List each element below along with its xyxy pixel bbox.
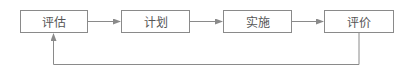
node-label: 评价	[347, 13, 371, 30]
node-label: 计划	[144, 13, 168, 30]
node-assess: 评估	[20, 10, 88, 33]
arrow-feedback	[54, 33, 360, 65]
node-label: 评估	[42, 13, 66, 30]
node-plan: 计划	[121, 10, 190, 33]
node-implement: 实施	[223, 10, 292, 33]
node-evaluate: 评价	[324, 10, 394, 33]
node-label: 实施	[246, 13, 270, 30]
